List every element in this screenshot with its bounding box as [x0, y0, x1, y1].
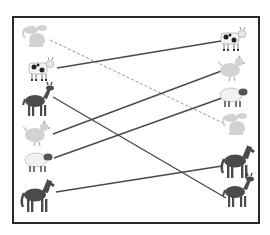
right-cow-icon: [221, 27, 246, 51]
right-chicken-icon: [217, 55, 246, 81]
right-dog-icon: [223, 113, 247, 135]
left-chicken-icon: [22, 120, 51, 146]
right-deer-icon: [223, 173, 254, 207]
left-sheep-icon: [25, 153, 53, 172]
left-cow-icon: [29, 57, 54, 81]
left-deer-icon: [23, 82, 54, 116]
left-horse-icon: [22, 179, 55, 212]
animal-figures: [0, 0, 270, 235]
right-horse-icon: [222, 145, 255, 178]
left-dog-icon: [23, 25, 47, 47]
matching-worksheet: [0, 0, 270, 235]
right-sheep-icon: [220, 88, 248, 107]
